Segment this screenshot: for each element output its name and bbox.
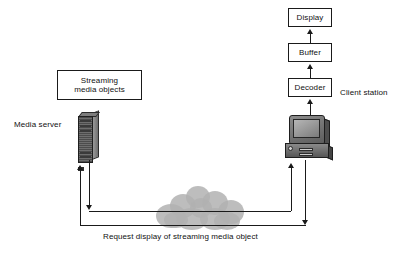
request-caption: Request display of streaming media objec… — [103, 232, 258, 242]
network-to-client-line — [291, 168, 292, 211]
streaming-media-objects-label: Streaming media objects — [74, 76, 125, 95]
request-to-server-line — [80, 170, 81, 225]
server-to-network-arrowhead — [86, 205, 92, 210]
media-server-label: Media server — [14, 120, 61, 130]
desktop-computer-icon — [285, 115, 335, 161]
decoder-box-label: Decoder — [295, 83, 326, 93]
client-station-label: Client station — [340, 88, 388, 98]
display-box: Display — [288, 8, 332, 27]
server-to-network-line — [89, 160, 90, 205]
data-path-line — [89, 211, 291, 212]
buffer-to-display-line — [310, 33, 311, 43]
request-to-server-arrowhead — [77, 165, 83, 170]
streaming-media-objects-box: Streaming media objects — [57, 70, 142, 100]
server-tower-icon — [78, 112, 102, 168]
buffer-box-label: Buffer — [299, 48, 321, 58]
client-request-line — [305, 160, 306, 220]
buffer-box: Buffer — [288, 43, 332, 62]
network-cloud-icon — [152, 182, 252, 230]
diagram-canvas: Display Buffer Decoder Client station St… — [0, 0, 413, 256]
display-box-label: Display — [297, 13, 324, 23]
decoder-box: Decoder — [288, 78, 332, 97]
request-path-line — [80, 225, 306, 226]
network-to-client-arrowhead — [288, 163, 294, 168]
decoder-to-buffer-line — [310, 68, 311, 78]
